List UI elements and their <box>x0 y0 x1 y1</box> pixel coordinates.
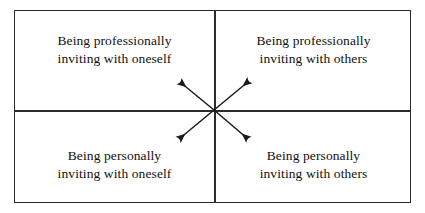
quadrant-top-left: Being professionally inviting with onese… <box>15 11 214 110</box>
quadrant-bottom-left-label: Being personally inviting with oneself <box>58 147 172 182</box>
quadrant-top-right: Being professionally inviting with other… <box>215 11 412 110</box>
quadrant-bottom-right-label: Being personally inviting with others <box>260 147 368 182</box>
quadrant-top-right-label: Being professionally inviting with other… <box>256 32 370 67</box>
quadrant-bottom-left: Being personally inviting with oneself <box>15 111 214 204</box>
matrix-frame: Being professionally inviting with onese… <box>14 10 411 203</box>
diagram-root: Being professionally inviting with onese… <box>0 0 425 213</box>
quadrant-bottom-right: Being personally inviting with others <box>215 111 412 204</box>
quadrant-top-left-label: Being professionally inviting with onese… <box>57 32 171 67</box>
